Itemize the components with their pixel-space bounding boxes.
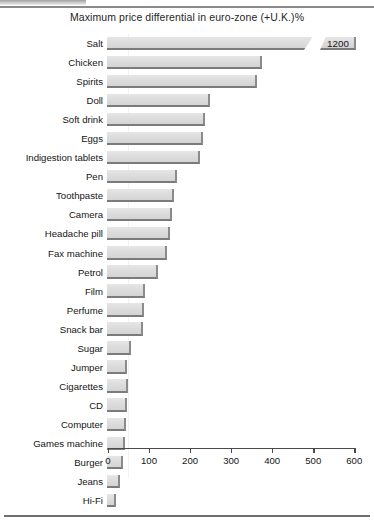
category-label: CD (89, 396, 103, 415)
category-label: Games machine (33, 434, 103, 453)
category-label-row: Doll (0, 91, 103, 110)
category-label-row: Jumper (0, 358, 103, 377)
category-label: Pen (86, 167, 103, 186)
bar-fill (107, 151, 200, 164)
category-label-row: Burger (0, 453, 103, 472)
axis-tick-label: 500 (305, 455, 321, 466)
category-label: Jumper (71, 358, 103, 377)
category-label-row: Hi-Fi (0, 491, 103, 510)
category-label: Jeans (77, 472, 103, 491)
axis-tick (231, 448, 232, 453)
bottom-divider-rule (4, 515, 370, 517)
category-label: Film (85, 282, 103, 301)
category-label: Doll (86, 91, 103, 110)
bar-fill (107, 379, 128, 392)
axis-tick (272, 448, 273, 453)
bar-fill (107, 94, 210, 107)
bar-eggs (107, 132, 203, 145)
category-label-row: Snack bar (0, 320, 103, 339)
bar-fill (107, 37, 313, 50)
bar-doll (107, 94, 210, 107)
category-label-row: Sugar (0, 339, 103, 358)
category-label: Chicken (68, 53, 103, 72)
bar-row (107, 491, 374, 510)
bar-row (107, 148, 374, 167)
axis-tick-label: 200 (182, 455, 198, 466)
bar-fax-machine (107, 246, 167, 259)
bar-row (107, 205, 374, 224)
scan-artifact-strip (0, 0, 86, 5)
bar-row (107, 186, 374, 205)
bar-row (107, 167, 374, 186)
bar-soft-drink (107, 113, 205, 126)
bar-salt (107, 37, 313, 50)
category-label: Eggs (81, 129, 103, 148)
bar-cigarettes (107, 379, 128, 392)
bar-row (107, 339, 374, 358)
chart-title: Maximum price differential in euro-zone … (0, 11, 374, 23)
bar-fill (107, 341, 131, 354)
bar-fill (107, 303, 144, 316)
bar-row (107, 263, 374, 282)
category-label-row: Salt (0, 34, 103, 53)
axis-tick-label: 300 (223, 455, 239, 466)
category-label: Computer (61, 415, 103, 434)
axis-tick-label: 100 (141, 455, 157, 466)
category-label-row: Chicken (0, 53, 103, 72)
category-label: Snack bar (60, 320, 103, 339)
axis-tick (190, 448, 191, 453)
bar-row (107, 415, 374, 434)
category-label-row: Pen (0, 167, 103, 186)
axis-tick (354, 448, 355, 453)
bar-fill (107, 56, 262, 69)
bar-row (107, 282, 374, 301)
axis-tick-label: 600 (346, 455, 362, 466)
category-label-row: Camera (0, 205, 103, 224)
bar-fill (107, 189, 174, 202)
figure-container: Maximum price differential in euro-zone … (0, 0, 374, 526)
category-label: Spirits (76, 72, 103, 91)
category-label: Camera (69, 205, 103, 224)
category-label-row: Cigarettes (0, 377, 103, 396)
category-label: Salt (86, 34, 103, 53)
bar-toothpaste (107, 189, 174, 202)
bar-hi-fi (107, 494, 116, 507)
category-label: Hi-Fi (83, 491, 103, 510)
category-label: Cigarettes (59, 377, 103, 396)
category-label-row: Perfume (0, 301, 103, 320)
category-label-row: Indigestion tablets (0, 148, 103, 167)
bar-row (107, 110, 374, 129)
bar-row (107, 224, 374, 243)
bar-fill (107, 418, 126, 431)
category-label-row: CD (0, 396, 103, 415)
category-label-row: Spirits (0, 72, 103, 91)
category-label-row: Jeans (0, 472, 103, 491)
bar-row (107, 129, 374, 148)
category-label-row: Fax machine (0, 244, 103, 263)
axis-tick (313, 448, 314, 453)
category-label: Indigestion tablets (26, 148, 103, 167)
axis-tick (108, 448, 109, 453)
bar-row (107, 244, 374, 263)
bar-perfume (107, 303, 144, 316)
bar-row (107, 358, 374, 377)
bar-camera (107, 208, 172, 221)
category-label-row: Computer (0, 415, 103, 434)
bar-row (107, 377, 374, 396)
bar-sugar (107, 341, 131, 354)
broken-bar-value-label: 1200 (320, 37, 356, 50)
category-label: Toothpaste (56, 186, 103, 205)
category-label-row: Film (0, 282, 103, 301)
bars-area: 1200 (107, 34, 374, 478)
bar-film (107, 284, 145, 297)
category-label: Soft drink (62, 110, 103, 129)
bar-row (107, 91, 374, 110)
category-label: Perfume (67, 301, 103, 320)
bar-row (107, 301, 374, 320)
bar-fill (107, 265, 158, 278)
axis-tick-label: 0 (105, 455, 110, 466)
category-label-row: Petrol (0, 263, 103, 282)
category-label-row: Headache pill (0, 224, 103, 243)
bar-row (107, 320, 374, 339)
bar-fill (107, 75, 257, 88)
